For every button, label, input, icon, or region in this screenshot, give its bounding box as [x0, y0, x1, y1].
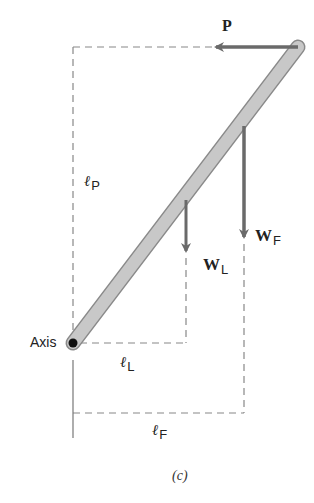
axis-label: Axis — [30, 334, 56, 350]
lever-arm-l-label: ℓL — [120, 353, 134, 371]
weight-l-symbol: W — [203, 255, 220, 274]
lever-arm-f-symbol: ℓ — [152, 421, 158, 439]
lever-arm-f-subscript: F — [159, 427, 167, 442]
force-p-label: P — [222, 17, 232, 35]
weight-f-label: WF — [255, 226, 281, 246]
lever-arm-p-symbol: ℓ — [84, 172, 90, 190]
figure-caption: (c) — [172, 468, 188, 484]
lever-arm-l-subscript: L — [127, 359, 134, 374]
lever-arm-p-label: ℓP — [84, 172, 100, 190]
weight-l-subscript: L — [221, 262, 228, 277]
weight-l-label: WL — [203, 255, 228, 275]
lever-arm-f-label: ℓF — [152, 421, 167, 439]
lever-arm-p-subscript: P — [91, 178, 100, 193]
weight-f-symbol: W — [255, 226, 272, 245]
weight-f-subscript: F — [273, 233, 281, 248]
axis-pivot-icon — [69, 339, 78, 348]
lever-arm-l-symbol: ℓ — [120, 353, 126, 371]
lever-diagram: P WL WF Axis ℓP ℓL ℓF (c) — [0, 0, 314, 503]
